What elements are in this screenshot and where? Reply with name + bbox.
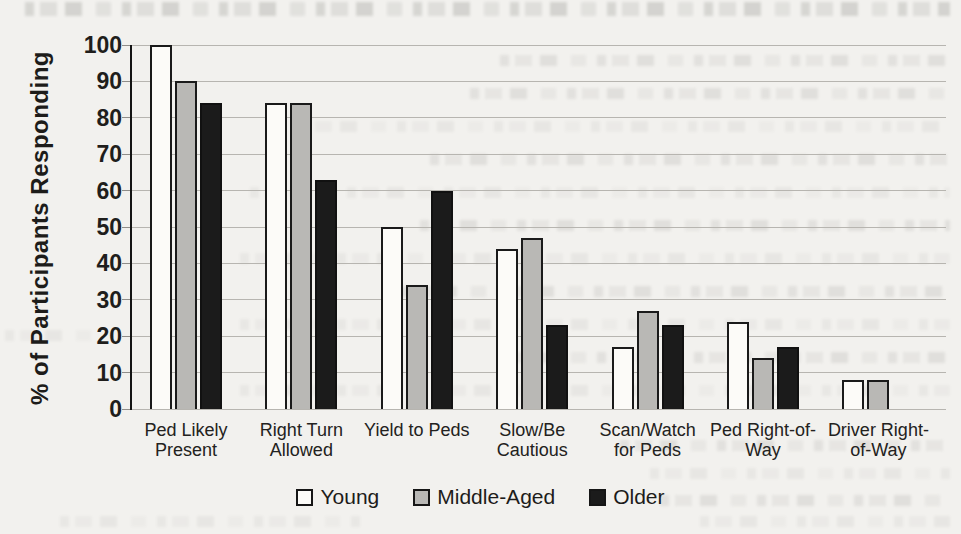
x-category-label-2: Yield to Peds	[355, 420, 479, 440]
bar-young-4	[612, 347, 634, 409]
x-category-label-line: Scan/Watch	[586, 420, 710, 440]
x-category-label-line: Allowed	[239, 440, 363, 460]
bar-young-6	[842, 380, 864, 409]
x-category-label-line: of-Way	[816, 440, 940, 460]
bar-older-0	[200, 103, 222, 409]
bar-older-5	[777, 347, 799, 409]
y-axis-line	[130, 45, 132, 410]
y-tick-label: 50	[56, 215, 122, 239]
x-category-label-line: Ped Likely	[124, 420, 248, 440]
x-category-label-line: Yield to Peds	[355, 420, 479, 440]
bar-older-3	[546, 325, 568, 409]
x-category-label-line: Slow/Be	[470, 420, 594, 440]
y-tick-label: 20	[56, 324, 122, 348]
legend-label: Young	[320, 485, 379, 509]
legend-label: Older	[613, 485, 664, 509]
legend-swatch-older	[589, 489, 606, 506]
gridline	[131, 227, 946, 228]
legend-item-middle-aged: Middle-Aged	[413, 485, 555, 509]
bar-middle-aged-1	[290, 103, 312, 409]
bar-young-2	[381, 227, 403, 409]
bar-young-0	[150, 45, 172, 409]
y-tick-label: 0	[56, 397, 122, 421]
legend-item-older: Older	[589, 485, 664, 509]
x-category-label-5: Ped Right-of-Way	[701, 420, 825, 460]
legend-label: Middle-Aged	[437, 485, 555, 509]
gridline	[131, 117, 946, 118]
legend: YoungMiddle-AgedOlder	[0, 485, 961, 509]
scanned-page: % of Participants Responding 01020304050…	[0, 0, 961, 534]
bar-older-2	[431, 191, 453, 409]
bar-chart: % of Participants Responding 01020304050…	[0, 0, 961, 534]
y-tick-label: 90	[56, 69, 122, 93]
y-tick-label: 80	[56, 106, 122, 130]
legend-item-young: Young	[296, 485, 379, 509]
y-axis-title: % of Participants Responding	[26, 38, 54, 418]
y-tick-label: 40	[56, 251, 122, 275]
gridline	[131, 190, 946, 191]
x-category-label-line: Way	[701, 440, 825, 460]
bar-young-5	[727, 322, 749, 409]
bar-young-3	[496, 249, 518, 409]
bar-middle-aged-2	[406, 285, 428, 409]
gridline	[131, 154, 946, 155]
bar-middle-aged-3	[521, 238, 543, 409]
y-tick-label: 100	[56, 33, 122, 57]
y-tick-label: 70	[56, 142, 122, 166]
bar-older-4	[662, 325, 684, 409]
x-category-label-line: Cautious	[470, 440, 594, 460]
y-tick-label: 30	[56, 288, 122, 312]
legend-swatch-middle-aged	[413, 489, 430, 506]
x-category-label-line: Driver Right-	[816, 420, 940, 440]
bar-older-1	[315, 180, 337, 409]
bar-middle-aged-6	[867, 380, 889, 409]
gridline	[131, 45, 946, 46]
x-category-label-line: Ped Right-of-	[701, 420, 825, 440]
gridline	[131, 81, 946, 82]
y-tick-label: 10	[56, 361, 122, 385]
x-category-label-3: Slow/BeCautious	[470, 420, 594, 460]
x-category-label-1: Right TurnAllowed	[239, 420, 363, 460]
x-category-label-line: Present	[124, 440, 248, 460]
bar-middle-aged-5	[752, 358, 774, 409]
bar-young-1	[265, 103, 287, 409]
x-category-label-line: Right Turn	[239, 420, 363, 440]
x-category-label-line: for Peds	[586, 440, 710, 460]
legend-swatch-young	[296, 489, 313, 506]
bar-middle-aged-0	[175, 81, 197, 409]
bar-middle-aged-4	[637, 311, 659, 409]
x-category-label-0: Ped LikelyPresent	[124, 420, 248, 460]
x-category-label-6: Driver Right-of-Way	[816, 420, 940, 460]
x-category-label-4: Scan/Watchfor Peds	[586, 420, 710, 460]
y-tick-label: 60	[56, 179, 122, 203]
